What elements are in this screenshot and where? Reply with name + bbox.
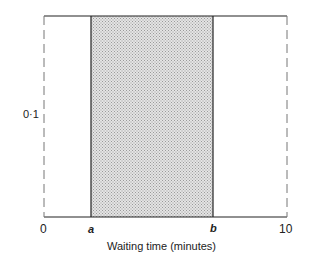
uniform-density-plot <box>0 0 314 265</box>
x-tick-a: a <box>88 223 94 235</box>
x-axis-title: Waiting time (minutes) <box>107 240 216 252</box>
x-tick-0: 0 <box>40 222 47 236</box>
x-tick-10: 10 <box>279 222 292 236</box>
x-tick-b: b <box>210 222 217 234</box>
y-tick-label: 0·1 <box>23 108 39 120</box>
shaded-region <box>91 16 213 217</box>
